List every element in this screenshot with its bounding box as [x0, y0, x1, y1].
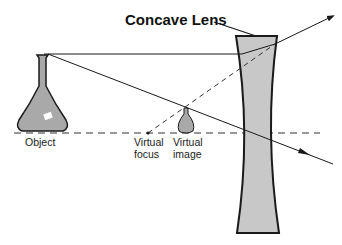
virtual-focus-label: Virtual focus — [134, 136, 164, 160]
diagram-title: Concave Lens — [125, 11, 227, 28]
virtual-image-flask — [178, 108, 194, 133]
virtual-image-label-line1: Virtual — [173, 136, 203, 148]
virtual-image-label: Virtual image — [173, 136, 203, 160]
virtual-focus-point — [146, 131, 149, 134]
virtual-focus-label-line2: focus — [134, 148, 164, 160]
concave-lens-diagram — [0, 0, 342, 245]
object-flask — [18, 55, 68, 131]
virtual-focus-label-line1: Virtual — [134, 136, 164, 148]
object-label: Object — [25, 136, 55, 148]
virtual-image-label-line2: image — [173, 148, 203, 160]
central-ray-arrow-icon — [298, 148, 310, 155]
refracted-ray — [275, 16, 333, 44]
